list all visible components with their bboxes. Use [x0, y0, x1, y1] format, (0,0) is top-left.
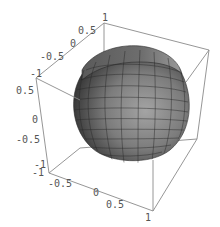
- tick-bottom-3: 0.5: [106, 199, 124, 210]
- tick-bottom-1: -0.5: [48, 178, 72, 189]
- tick-bottom-0: -1: [32, 167, 44, 178]
- left-axis-ticks: 0.5 0 -0.5 -1: [16, 85, 46, 170]
- tick-left-1: 0: [32, 114, 38, 125]
- box-edge-vertical-right: [197, 50, 209, 139]
- tick-top-4: 1: [102, 12, 108, 23]
- tick-bottom-4: 1: [145, 212, 151, 223]
- tick-bottom-2: 0: [93, 187, 99, 198]
- tick-left-0: 0.5: [16, 85, 34, 96]
- box-edge-top-front: [36, 78, 80, 100]
- tick-top-1: -0.5: [40, 51, 64, 62]
- tick-top-0: -1: [30, 68, 42, 79]
- box-edge-top-back: [104, 23, 209, 50]
- tick-left-2: -0.5: [16, 134, 40, 145]
- bottom-axis-ticks: -1 -0.5 0 0.5 1: [32, 167, 151, 223]
- surface-plot-3d: -1 -0.5 0 0.5 1 0.5 0 -0.5 -1 -1 -0.5 0 …: [0, 0, 220, 227]
- tick-top-3: 0.5: [78, 25, 96, 36]
- tick-top-2: 0: [70, 38, 76, 49]
- truncated-sphere-surface: [73, 46, 189, 164]
- box-edge-bottom-back-left: [49, 148, 80, 173]
